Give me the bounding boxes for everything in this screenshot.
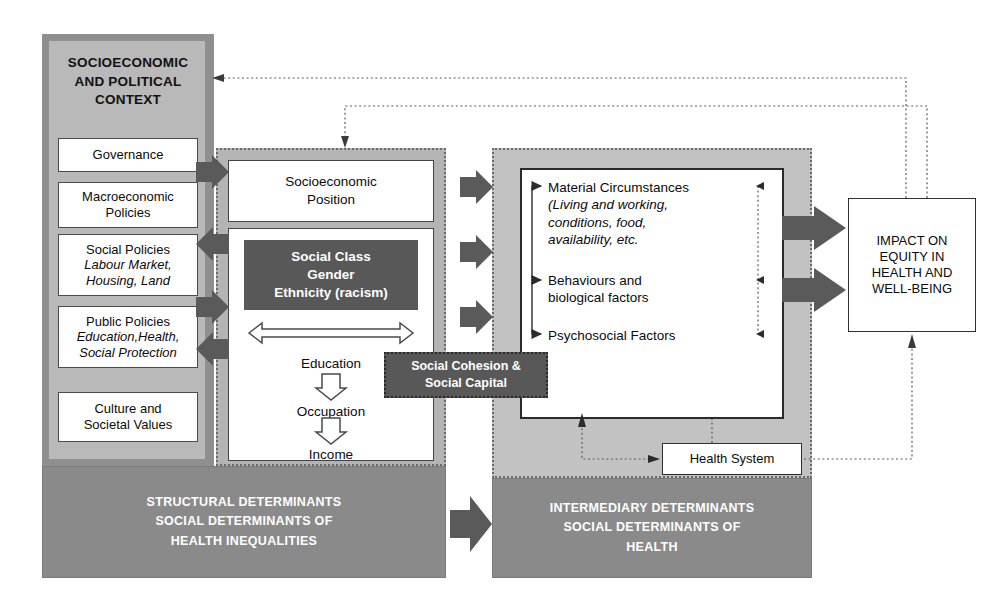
- social-class-label: Social Class: [274, 248, 387, 266]
- context-item-macroeconomic-policies[interactable]: Macroeconomic Policies: [58, 182, 198, 228]
- diagram-canvas: SOCIOECONOMIC AND POLITICAL CONTEXT Gove…: [0, 0, 1007, 612]
- context-item-social-line-3: Housing, Land: [84, 273, 171, 289]
- context-item-social-policies[interactable]: Social Policies Labour Market, Housing, …: [58, 234, 198, 296]
- social-class-gender-ethnicity-box[interactable]: Social Class Gender Ethnicity (racism): [244, 240, 418, 310]
- health-system-box[interactable]: Health System: [662, 443, 802, 475]
- social-cohesion-line-2: Social Capital: [411, 375, 521, 392]
- context-item-macro-line-1: Macroeconomic: [82, 189, 174, 205]
- context-item-culture-societal-values[interactable]: Culture and Societal Values: [58, 392, 198, 442]
- material-circumstances-item[interactable]: Material Circumstances (Living and worki…: [548, 179, 753, 248]
- context-title-line-2: AND POLITICAL: [68, 73, 188, 92]
- impact-line-1: IMPACT ON: [872, 233, 953, 249]
- structural-band-line-2: SOCIAL DETERMINANTS OF: [147, 512, 342, 531]
- socioeconomic-position-box[interactable]: Socioeconomic Position: [228, 160, 434, 222]
- social-cohesion-line-1: Social Cohesion &: [411, 358, 521, 375]
- intermediary-determinants-band: INTERMEDIARY DETERMINANTS SOCIAL DETERMI…: [492, 478, 812, 578]
- behaviours-line-1: Behaviours and: [548, 272, 753, 289]
- context-panel-title: SOCIOECONOMIC AND POLITICAL CONTEXT: [47, 46, 209, 118]
- social-cohesion-social-capital-box[interactable]: Social Cohesion & Social Capital: [384, 352, 548, 398]
- context-item-public-line-3: Social Protection: [77, 345, 180, 361]
- context-item-macro-line-2: Policies: [82, 205, 174, 221]
- intermediary-band-line-3: HEALTH: [550, 538, 755, 557]
- material-circumstances-sub-2: conditions, food,: [548, 215, 646, 230]
- psychosocial-factors-item[interactable]: Psychosocial Factors: [548, 327, 753, 344]
- gender-label: Gender: [274, 266, 387, 284]
- block-arrow-structural-to-intermediary-3: [460, 300, 493, 334]
- context-item-social-line-2: Labour Market,: [84, 257, 171, 273]
- block-arrow-structural-band-to-intermediary-band: [450, 496, 492, 552]
- feedback-line-health-system-to-impact: [804, 334, 916, 459]
- block-arrow-structural-to-intermediary-2: [460, 235, 493, 269]
- impact-line-3: HEALTH AND: [872, 265, 953, 281]
- material-circumstances-sub-3: availability, etc.: [548, 232, 639, 247]
- socioeconomic-position-line-2: Position: [285, 191, 377, 209]
- impact-on-equity-box[interactable]: IMPACT ON EQUITY IN HEALTH AND WELL-BEIN…: [848, 198, 976, 332]
- impact-line-4: WELL-BEING: [872, 281, 953, 297]
- impact-line-2: EQUITY IN: [872, 249, 953, 265]
- structural-determinants-band: STRUCTURAL DETERMINANTS SOCIAL DETERMINA…: [42, 466, 446, 578]
- context-item-culture-line-2: Societal Values: [84, 417, 173, 433]
- income-label: Income: [244, 446, 418, 464]
- structural-band-line-1: STRUCTURAL DETERMINANTS: [147, 493, 342, 512]
- material-circumstances-title: Material Circumstances: [548, 179, 753, 196]
- context-item-public-line-1: Public Policies: [77, 314, 180, 330]
- health-system-label: Health System: [690, 451, 775, 467]
- context-item-governance[interactable]: Governance: [58, 138, 198, 172]
- context-item-governance-label: Governance: [93, 147, 164, 163]
- context-title-line-1: SOCIOECONOMIC: [68, 54, 188, 73]
- behaviours-line-2: biological factors: [548, 289, 753, 306]
- context-item-public-line-2: Education,Health,: [77, 329, 180, 345]
- context-item-social-line-1: Social Policies: [84, 242, 171, 258]
- intermediary-band-line-1: INTERMEDIARY DETERMINANTS: [550, 499, 755, 518]
- structural-band-line-3: HEALTH INEQUALITIES: [147, 532, 342, 551]
- block-arrow-structural-to-intermediary-1: [460, 170, 493, 204]
- intermediary-band-line-2: SOCIAL DETERMINANTS OF: [550, 518, 755, 537]
- behaviours-biological-factors-item[interactable]: Behaviours and biological factors: [548, 272, 753, 307]
- context-title-line-3: CONTEXT: [68, 91, 188, 110]
- occupation-label: Occupation: [244, 403, 418, 421]
- socioeconomic-position-line-1: Socioeconomic: [285, 173, 377, 191]
- context-item-culture-line-1: Culture and: [84, 401, 173, 417]
- ethnicity-label: Ethnicity (racism): [274, 284, 387, 302]
- material-circumstances-sub-1: (Living and working,: [548, 197, 668, 212]
- context-item-public-policies[interactable]: Public Policies Education,Health, Social…: [58, 306, 198, 368]
